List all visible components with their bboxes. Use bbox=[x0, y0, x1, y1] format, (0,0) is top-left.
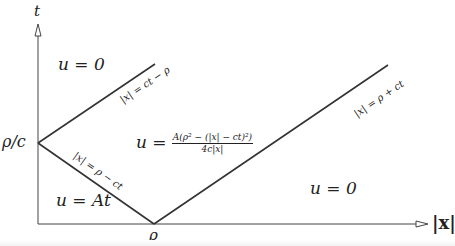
middle-numerator: A(ρ² − (|x| − ct)²) bbox=[172, 132, 253, 144]
rho-over-c-tick: ρ/c bbox=[2, 132, 26, 151]
middle-denominator: 4c|x| bbox=[172, 144, 253, 155]
middle-prefix: u = bbox=[136, 132, 167, 152]
line-rho-minus-ct bbox=[38, 143, 154, 224]
t-axis-arrow-icon bbox=[35, 24, 41, 36]
cut-off-caption-edge bbox=[0, 240, 455, 246]
region-u-zero-top: u = 0 bbox=[58, 54, 105, 74]
region-u-at: u = At bbox=[56, 190, 111, 210]
x-axis-label: |x| bbox=[432, 212, 455, 233]
t-axis-label: t bbox=[34, 2, 40, 20]
region-u-zero-right: u = 0 bbox=[310, 178, 357, 198]
x-axis-arrow-icon bbox=[416, 221, 428, 227]
region-u-middle: u = A(ρ² − (|x| − ct)²) 4c|x| bbox=[136, 132, 253, 155]
middle-fraction: A(ρ² − (|x| − ct)²) 4c|x| bbox=[172, 132, 253, 155]
